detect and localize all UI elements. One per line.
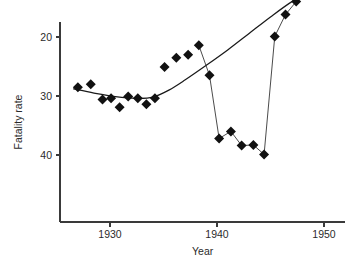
y-axis-title: Fatality rate — [12, 94, 24, 149]
data-point-marker — [205, 70, 215, 80]
y-tick-label: 20 — [40, 31, 52, 43]
fatality-rate-chart: 10203040 193019401950 Year Fatality rate — [0, 0, 362, 267]
data-point-marker — [237, 141, 247, 151]
axes-group — [60, 22, 345, 222]
y-axis-ticks: 10203040 — [40, 0, 60, 161]
x-tick-label: 1950 — [312, 228, 336, 240]
fitted-trend-curve — [74, 0, 342, 98]
data-point-marker — [280, 10, 290, 20]
chart-canvas: 10203040 193019401950 Year Fatality rate — [0, 0, 362, 267]
x-tick-label: 1940 — [205, 228, 229, 240]
data-point-marker — [123, 92, 133, 102]
data-point-marker — [141, 99, 151, 109]
y-tick-label: 30 — [40, 90, 52, 102]
data-point-marker — [171, 53, 181, 63]
data-point-marker — [194, 40, 204, 50]
x-axis-title: Year — [192, 245, 214, 257]
data-point-marker — [270, 31, 280, 41]
data-point-marker — [133, 93, 143, 103]
data-point-marker — [115, 102, 125, 112]
data-point-marker — [98, 95, 108, 105]
x-tick-label: 1930 — [98, 228, 122, 240]
data-point-markers — [73, 0, 342, 159]
data-point-marker — [183, 50, 193, 60]
x-axis-ticks: 193019401950 — [98, 222, 336, 240]
data-point-marker — [160, 62, 170, 72]
data-point-marker — [86, 79, 96, 89]
y-tick-label: 40 — [40, 149, 52, 161]
data-point-marker — [226, 126, 236, 136]
data-point-marker — [214, 133, 224, 143]
series-connector-line — [199, 2, 296, 155]
